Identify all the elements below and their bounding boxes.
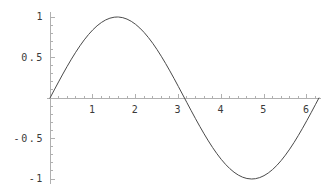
x-tick-label: 6 bbox=[287, 105, 327, 115]
y-tick-label: -1 bbox=[0, 174, 44, 184]
x-tick-label: 1 bbox=[73, 105, 113, 115]
y-tick-label: 0.5 bbox=[0, 53, 44, 63]
x-tick-label: 3 bbox=[158, 105, 198, 115]
y-tick-label: -0.5 bbox=[0, 134, 44, 144]
y-tick-label: 1 bbox=[0, 12, 44, 22]
x-tick-label: 4 bbox=[201, 105, 241, 115]
plot-canvas bbox=[0, 0, 336, 196]
sine-plot: 12345610.5-0.5-1 bbox=[0, 0, 336, 196]
x-tick-label: 2 bbox=[116, 105, 156, 115]
x-tick-label: 5 bbox=[244, 105, 284, 115]
